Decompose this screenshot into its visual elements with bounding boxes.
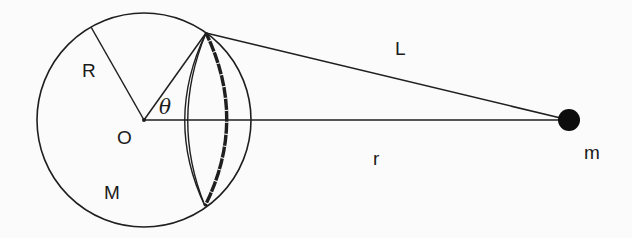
radius-label: R	[82, 60, 96, 81]
radius-line	[91, 27, 144, 120]
sphere-mass-label: M	[104, 182, 120, 203]
center-point	[142, 118, 146, 122]
slant-distance-label: L	[395, 38, 406, 59]
slant-distance-line	[206, 33, 569, 120]
point-mass-label: m	[584, 142, 600, 163]
center-label: O	[117, 127, 132, 148]
angle-label: θ	[159, 95, 171, 119]
shell-theorem-diagram: R O θ M L r m	[0, 0, 632, 238]
point-mass	[558, 109, 580, 131]
center-distance-label: r	[373, 148, 380, 169]
angle-line	[144, 33, 206, 120]
